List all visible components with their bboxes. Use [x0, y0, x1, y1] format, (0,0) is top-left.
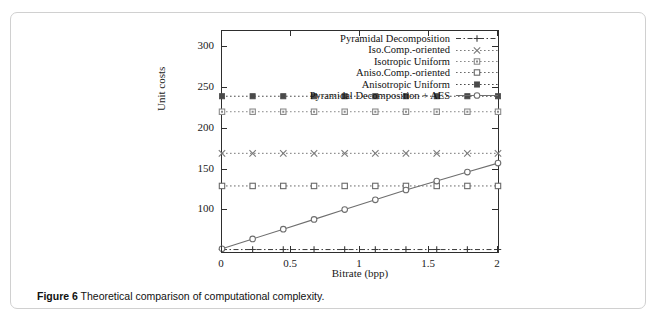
data-point-marker — [434, 246, 440, 252]
x-tick-mark — [497, 246, 498, 252]
data-point-marker — [464, 150, 470, 156]
figure-card: Unit costs 100150200250300 00.511.52 Bit… — [10, 12, 646, 309]
legend-item-sample — [455, 33, 499, 44]
legend-sample-icon — [455, 90, 499, 101]
y-tick-label: 150 — [174, 163, 214, 174]
series-3 — [219, 109, 500, 114]
legend-item-sample — [455, 79, 499, 90]
y-tick-mark — [221, 169, 227, 170]
data-point-marker — [281, 183, 286, 188]
data-point-marker — [342, 183, 347, 188]
data-point-marker-core — [252, 111, 254, 113]
data-point-marker-core — [374, 111, 376, 113]
legend-sample-icon — [455, 56, 499, 67]
legend-item[interactable]: Anisotropic Uniform — [283, 79, 499, 90]
series-4 — [219, 183, 500, 188]
x-axis-title: Bitrate (bpp) — [221, 267, 499, 279]
y-tick-mark-right — [492, 128, 498, 129]
data-point-marker-core — [436, 111, 438, 113]
data-point-marker — [311, 246, 317, 252]
data-point-marker-core — [282, 111, 284, 113]
data-point-marker — [219, 150, 225, 156]
data-point-marker — [341, 246, 347, 252]
y-tick-mark — [221, 87, 227, 88]
legend-item-label: Pyramidal Decomposition — [340, 33, 450, 44]
data-point-marker — [474, 70, 479, 75]
data-point-marker — [474, 82, 479, 87]
data-point-marker-core — [313, 111, 315, 113]
legend-item[interactable]: Pyramidal Decomposition — [283, 33, 499, 44]
data-point-marker — [249, 246, 255, 252]
legend-sample-icon — [455, 33, 499, 44]
data-point-marker — [219, 183, 224, 188]
data-point-marker — [250, 94, 255, 99]
data-point-marker — [342, 207, 348, 213]
y-tick-mark — [221, 128, 227, 129]
data-point-marker — [464, 246, 470, 252]
data-point-marker-core — [221, 111, 223, 113]
legend-item-label: Aniso.Comp.-oriented — [356, 67, 450, 78]
legend-sample-icon — [455, 45, 499, 56]
legend-item-label: Anisotropic Uniform — [362, 79, 450, 90]
y-axis-title: Unit costs — [155, 67, 167, 111]
data-point-marker — [372, 246, 378, 252]
series-line — [222, 163, 498, 249]
data-point-marker — [219, 94, 224, 99]
series-2 — [219, 150, 501, 156]
series-1 — [219, 246, 501, 252]
data-point-marker — [311, 150, 317, 156]
data-point-marker-core — [405, 111, 407, 113]
y-tick-label: 200 — [174, 122, 214, 133]
data-point-marker — [434, 178, 440, 184]
data-point-marker — [311, 183, 316, 188]
data-point-marker-core — [497, 111, 499, 113]
data-point-marker — [280, 150, 286, 156]
data-point-marker — [495, 246, 501, 252]
x-tick-mark — [359, 246, 360, 252]
y-tick-label: 100 — [174, 203, 214, 214]
y-tick-mark-right — [492, 169, 498, 170]
data-point-marker — [465, 183, 470, 188]
data-point-marker-core — [476, 60, 478, 62]
caption-label: Figure 6 — [37, 290, 78, 302]
legend-item[interactable]: Iso.Comp.-oriented — [283, 44, 499, 55]
data-point-marker-core — [344, 111, 346, 113]
legend-item[interactable]: Pyramidal Decomposition + AES — [283, 90, 499, 101]
data-point-marker — [373, 197, 379, 203]
x-tick-mark — [221, 246, 222, 252]
data-point-marker — [280, 246, 286, 252]
data-point-marker — [403, 187, 409, 193]
y-tick-mark — [221, 46, 227, 47]
data-point-marker — [495, 160, 501, 166]
legend-sample-icon — [455, 79, 499, 90]
legend-sample-icon — [455, 67, 499, 78]
data-point-marker — [474, 35, 480, 41]
data-point-marker — [372, 150, 378, 156]
data-point-marker — [474, 47, 480, 53]
legend-item[interactable]: Isotropic Uniform — [283, 56, 499, 67]
legend-item-sample — [455, 90, 499, 101]
legend-item-sample — [455, 45, 499, 56]
legend-item[interactable]: Aniso.Comp.-oriented — [283, 67, 499, 78]
figure-caption: Figure 6 Theoretical comparison of compu… — [37, 290, 617, 302]
series-6 — [219, 160, 501, 251]
chart-plot: Unit costs 100150200250300 00.511.52 Bit… — [161, 19, 506, 281]
x-tick-mark-top — [221, 30, 222, 36]
data-point-marker — [250, 236, 256, 242]
chart-legend: Pyramidal DecompositionIso.Comp.-oriente… — [283, 33, 499, 101]
legend-item-label: Iso.Comp.-oriented — [368, 44, 450, 55]
data-point-marker-core — [466, 111, 468, 113]
y-tick-mark-right — [492, 209, 498, 210]
legend-item-label: Isotropic Uniform — [374, 56, 450, 67]
caption-text: Theoretical comparison of computational … — [81, 290, 325, 302]
y-tick-label: 250 — [174, 81, 214, 92]
legend-item-label: Pyramidal Decomposition + AES — [310, 90, 450, 101]
data-point-marker — [403, 150, 409, 156]
data-point-marker — [474, 93, 480, 99]
data-point-marker — [250, 183, 255, 188]
data-point-marker — [403, 246, 409, 252]
x-tick-mark — [290, 246, 291, 252]
y-tick-mark — [221, 209, 227, 210]
data-point-marker — [495, 183, 500, 188]
y-tick-label: 300 — [174, 40, 214, 51]
